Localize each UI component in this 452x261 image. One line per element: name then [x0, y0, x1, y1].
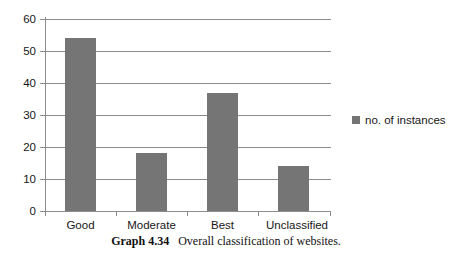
gridline-60	[45, 19, 331, 20]
x-axis-tick-mark	[187, 211, 188, 216]
bar-unclassified[interactable]	[278, 166, 309, 211]
y-axis-tick-label: 40	[0, 77, 36, 89]
bar-moderate[interactable]	[136, 153, 167, 211]
caption-description: Overall classification of websites.	[178, 234, 341, 248]
figure-bar-chart: 60 50 40 30 20 10 0	[0, 0, 452, 261]
y-axis-tick-label: 60	[0, 13, 36, 25]
x-axis-category-good: Good	[45, 219, 116, 231]
legend-swatch-icon	[352, 116, 360, 124]
chart-legend: no. of instances	[352, 114, 446, 126]
x-axis-tick-mark	[258, 211, 259, 216]
x-axis-tick-mark	[116, 211, 117, 216]
y-axis-tick-label: 30	[0, 109, 36, 121]
x-axis-baseline	[45, 211, 331, 212]
figure-caption: Graph 4.34Overall classification of webs…	[0, 234, 452, 249]
x-axis-category-unclassified: Unclassified	[258, 219, 336, 231]
bar-best[interactable]	[207, 93, 238, 211]
caption-number-label: Graph 4.34	[111, 234, 169, 248]
x-axis-tick-mark	[45, 211, 46, 216]
y-axis-tick-label: 50	[0, 45, 36, 57]
x-axis-tick-mark	[330, 211, 331, 216]
y-axis-tick-label: 0	[0, 205, 36, 217]
chart-plot-region: 60 50 40 30 20 10 0	[0, 0, 452, 228]
x-axis-category-best: Best	[187, 219, 258, 231]
x-axis-category-moderate: Moderate	[116, 219, 187, 231]
y-axis-tick-label: 20	[0, 141, 36, 153]
legend-label-no-of-instances: no. of instances	[365, 114, 446, 126]
plot-inner	[45, 19, 331, 211]
y-axis-tick-label: 10	[0, 173, 36, 185]
bar-good[interactable]	[65, 38, 96, 211]
